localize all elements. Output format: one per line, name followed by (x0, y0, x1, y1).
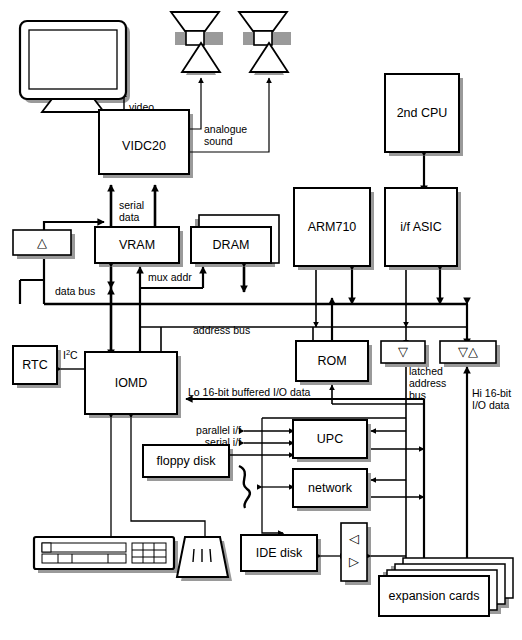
block-floppy-disk: floppy disk (143, 445, 229, 477)
label-address-bus: address bus (193, 324, 250, 336)
label-video: video (129, 101, 154, 113)
block-label-floppy-disk: floppy disk (156, 454, 216, 468)
buffer-vram-symbol: △ (37, 236, 47, 250)
block-label-rom: ROM (317, 354, 346, 368)
svg-text:I2C: I2C (63, 348, 78, 361)
block-vram: VRAM (95, 227, 179, 263)
buffer-ide-symbol-top: ◁ (349, 532, 359, 546)
block-rtc: RTC (13, 346, 57, 384)
network-cable-icon (239, 466, 250, 508)
buffer-hi-io-symbol: ▽△ (458, 345, 478, 359)
block-label-vidc20: VIDC20 (122, 139, 166, 153)
block-label-ide-disk: IDE disk (256, 546, 303, 560)
block-network: network (293, 469, 367, 507)
label-hi-io-1: Hi 16-bit (472, 387, 511, 399)
wire-databus-left (20, 280, 44, 304)
keyboard (34, 537, 174, 569)
wire-parallel-if (244, 431, 294, 455)
block-label-dram: DRAM (213, 238, 250, 252)
label-latched-3: bus (409, 389, 426, 401)
label-i2c-c: C (70, 349, 78, 361)
label-parallel-if: parallel i/f (196, 424, 241, 436)
label-serial-if: serial i/f (205, 436, 241, 448)
block-ide-disk: IDE disk (241, 535, 317, 571)
block-rom: ROM (296, 341, 368, 381)
block-2nd-cpu: 2nd CPU (385, 74, 459, 152)
block-arm710: ARM710 (294, 188, 370, 266)
buffer-vram: △ (13, 230, 71, 255)
mouse (177, 537, 228, 577)
label-serial-1: serial (119, 199, 144, 211)
block-expansion-cards: expansion cards (379, 558, 513, 616)
buffer-latched-address: ▽ (381, 341, 425, 363)
wire-ide-latched (262, 418, 283, 539)
block-upc: UPC (293, 420, 367, 458)
amplifier-right (250, 43, 288, 72)
buffer-ide: ◁ ▷ (341, 523, 367, 581)
block-label-rtc: RTC (22, 358, 47, 372)
block-label-vram: VRAM (119, 238, 155, 252)
buffer-hi-io: ▽△ (440, 341, 496, 363)
block-label-if-asic: i/f ASIC (400, 220, 442, 234)
block-label-iomd: IOMD (115, 376, 148, 390)
monitor (20, 21, 126, 112)
label-hi-io-2: I/O data (472, 399, 510, 411)
block-label-upc: UPC (317, 432, 343, 446)
block-label-arm710: ARM710 (308, 220, 357, 234)
label-latched-2: address (409, 377, 446, 389)
diagram-canvas: VIDC20 △ VRAM DRAM ARM710 i/f ASIC 2nd C… (0, 0, 522, 640)
amplifier-left (182, 43, 220, 72)
label-i2c: I2C (63, 348, 78, 361)
label-analogue-sound-2: sound (204, 135, 233, 147)
block-label-expansion-cards: expansion cards (388, 589, 479, 603)
buffer-ide-symbol-bottom: ▷ (349, 555, 359, 569)
label-data-bus: data bus (55, 285, 95, 297)
wire-upc-bus (371, 431, 424, 497)
label-serial-2: data (119, 211, 140, 223)
label-latched-1: latched (409, 365, 443, 377)
block-label-network: network (308, 481, 353, 495)
buffer-latched-symbol: ▽ (398, 345, 408, 359)
label-analogue-sound-1: analogue (204, 123, 247, 135)
label-mux-addr: mux addr (148, 271, 192, 283)
architecture-diagram: VIDC20 △ VRAM DRAM ARM710 i/f ASIC 2nd C… (0, 0, 522, 640)
block-label-2nd-cpu: 2nd CPU (397, 106, 448, 120)
block-if-asic: i/f ASIC (385, 188, 457, 266)
block-iomd: IOMD (85, 352, 177, 414)
block-vidc20: VIDC20 (99, 110, 189, 174)
label-lo-io: Lo 16-bit buffered I/O data (188, 386, 311, 398)
block-dram: DRAM (191, 215, 279, 263)
